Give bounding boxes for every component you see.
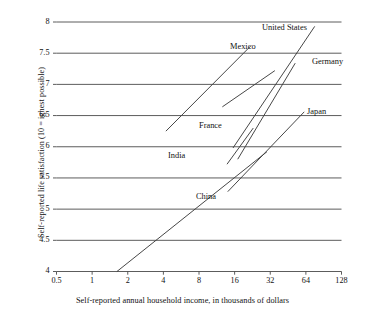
series-line-japan (228, 112, 304, 192)
x-tick-label: 64 (286, 276, 326, 285)
series-line-germany (238, 63, 295, 159)
x-tick-label: 1 (72, 276, 112, 285)
series-line-group (117, 26, 315, 271)
series-line-france (222, 71, 275, 107)
x-tick-label: 8 (179, 276, 219, 285)
series-label-united-states: United States (262, 23, 307, 32)
gridline-group (57, 22, 342, 272)
series-label-france: France (199, 121, 222, 130)
series-label-germany: Germany (312, 57, 343, 66)
series-label-mexico: Mexico (230, 42, 256, 51)
x-tick-label: 0.5 (37, 276, 77, 285)
x-tick-label: 16 (215, 276, 255, 285)
series-label-china: China (196, 192, 216, 201)
series-line-mexico (166, 46, 251, 131)
y-axis-title: Self-reported life satisfaction (10 = ig… (37, 33, 46, 273)
x-tick-label: 128 (322, 276, 362, 285)
series-label-india: India (168, 151, 185, 160)
chart-figure: 44.555.566.577.58 0.51248163264128 Mexic… (0, 0, 365, 317)
y-tick-label: 8 (24, 17, 50, 26)
y-tickmark-group (53, 22, 342, 275)
series-line-india (227, 128, 253, 164)
series-line-china (117, 152, 267, 272)
x-tick-label: 2 (108, 276, 148, 285)
x-tick-label: 32 (250, 276, 290, 285)
x-axis-title: Self-reported annual household income, i… (0, 296, 365, 305)
x-tick-label: 4 (143, 276, 183, 285)
series-label-japan: Japan (307, 107, 326, 116)
